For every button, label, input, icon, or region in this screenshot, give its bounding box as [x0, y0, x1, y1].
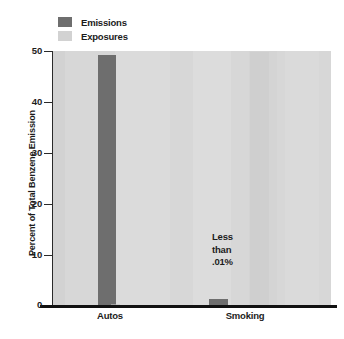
- bar-autos-emissions: [98, 55, 116, 306]
- annotation-line-1: Less: [212, 231, 256, 244]
- y-tick-mark: [44, 255, 52, 256]
- legend-label-emissions: Emissions: [81, 17, 127, 28]
- annotation-line-3: .01%: [212, 256, 256, 269]
- plot-area: [53, 51, 331, 306]
- y-tick-mark: [44, 204, 52, 205]
- x-axis-line: [40, 305, 337, 308]
- chart-legend: Emissions Exposures: [58, 16, 198, 44]
- legend-item-exposures: Exposures: [58, 30, 198, 42]
- y-axis-title: Percent of Total Benzene Emission: [27, 83, 37, 283]
- y-tick-mark: [44, 153, 52, 154]
- annotation-less-than: Less than .01%: [212, 231, 256, 269]
- legend-item-emissions: Emissions: [58, 16, 198, 28]
- y-axis-line: [52, 51, 53, 306]
- background-band: [115, 51, 170, 306]
- background-band: [285, 51, 319, 306]
- legend-label-exposures: Exposures: [81, 31, 128, 42]
- legend-swatch-exposures-icon: [58, 31, 72, 41]
- y-tick-label-0: 0: [18, 299, 42, 310]
- y-tick-label-50: 50: [18, 45, 42, 56]
- annotation-line-2: than: [212, 244, 256, 257]
- y-tick-mark: [44, 102, 52, 103]
- legend-swatch-emissions-icon: [58, 17, 72, 27]
- x-tick-label-autos: Autos: [75, 310, 145, 321]
- background-band: [53, 51, 65, 306]
- y-tick-mark: [44, 51, 52, 52]
- x-tick-label-smoking: Smoking: [205, 310, 285, 321]
- benzene-emission-bar-chart: Emissions Exposures 50 40 30 20 10 0 Per…: [0, 0, 344, 339]
